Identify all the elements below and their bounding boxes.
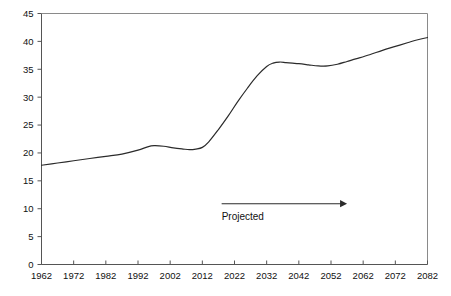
y-tick-label: 45 [23, 8, 34, 19]
x-tick-label: 2062 [353, 270, 374, 281]
y-tick-label: 35 [23, 64, 34, 75]
x-tick-label: 2072 [385, 270, 406, 281]
y-tick-label: 5 [28, 231, 33, 242]
y-tick-label: 25 [23, 119, 34, 130]
x-tick-label: 1972 [63, 270, 84, 281]
x-tick-label: 2012 [192, 270, 213, 281]
x-tick-label: 1992 [127, 270, 148, 281]
x-tick-label: 2022 [224, 270, 245, 281]
x-tick-label: 1982 [95, 270, 116, 281]
x-tick-label: 2052 [320, 270, 341, 281]
x-tick-label: 2042 [288, 270, 309, 281]
y-tick-label: 15 [23, 175, 34, 186]
x-tick-label: 2002 [160, 270, 181, 281]
y-tick-label: 0 [28, 259, 33, 270]
x-tick-label: 1962 [31, 270, 52, 281]
x-tick-label: 2082 [417, 270, 438, 281]
y-tick-label: 20 [23, 147, 34, 158]
x-tick-label: 2032 [256, 270, 277, 281]
projected-label: Projected [222, 211, 264, 222]
line-chart: 051015202530354045 196219721982199220022… [0, 0, 451, 296]
y-tick-label: 40 [23, 36, 34, 47]
chart-canvas: 051015202530354045 196219721982199220022… [0, 0, 451, 296]
y-tick-label: 30 [23, 92, 34, 103]
y-tick-label: 10 [23, 203, 34, 214]
chart-background [0, 0, 451, 296]
